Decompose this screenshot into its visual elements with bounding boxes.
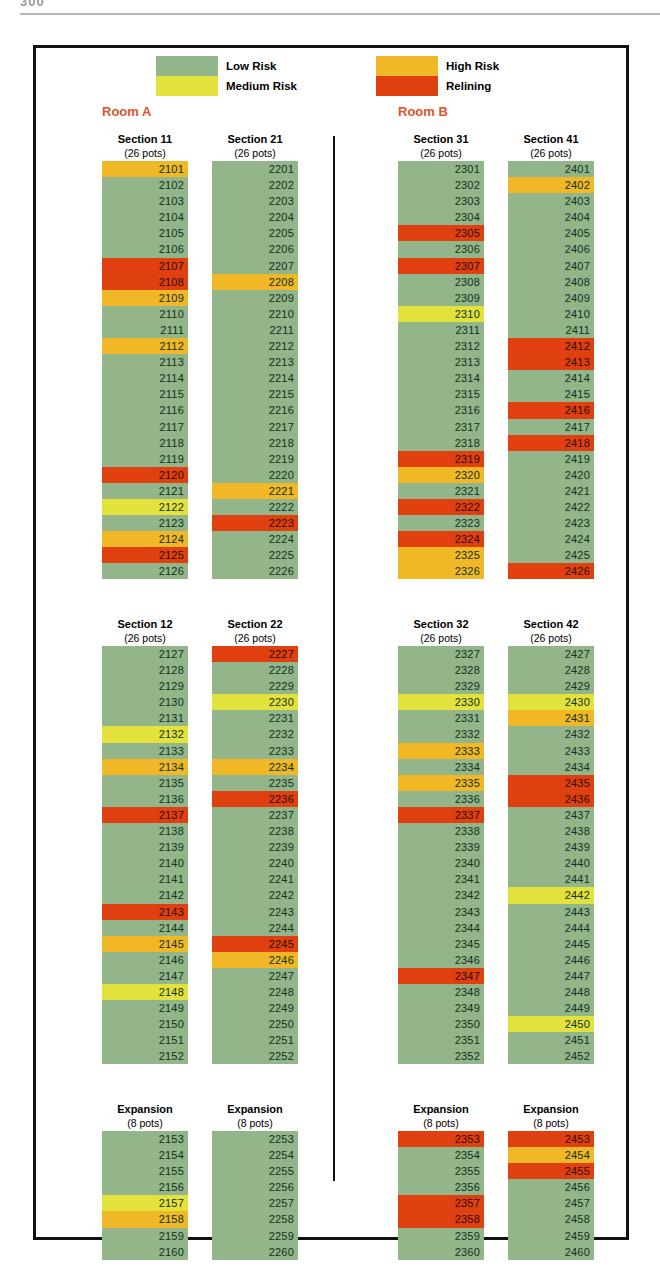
pot-cell[interactable]: 2226 bbox=[212, 563, 298, 579]
pot-cell[interactable]: 2460 bbox=[508, 1244, 594, 1260]
pot-cell[interactable]: 2403 bbox=[508, 193, 594, 209]
pot-cell[interactable]: 2405 bbox=[508, 225, 594, 241]
pot-cell[interactable]: 2230 bbox=[212, 694, 298, 710]
pot-cell[interactable]: 2109 bbox=[102, 290, 188, 306]
pot-cell[interactable]: 2319 bbox=[398, 451, 484, 467]
pot-cell[interactable]: 2240 bbox=[212, 855, 298, 871]
pot-cell[interactable]: 2344 bbox=[398, 920, 484, 936]
pot-cell[interactable]: 2343 bbox=[398, 904, 484, 920]
pot-cell[interactable]: 2108 bbox=[102, 274, 188, 290]
pot-cell[interactable]: 2103 bbox=[102, 193, 188, 209]
pot-cell[interactable]: 2321 bbox=[398, 483, 484, 499]
pot-cell[interactable]: 2259 bbox=[212, 1228, 298, 1244]
pot-cell[interactable]: 2106 bbox=[102, 241, 188, 257]
pot-cell[interactable]: 2113 bbox=[102, 354, 188, 370]
pot-cell[interactable]: 2155 bbox=[102, 1163, 188, 1179]
pot-cell[interactable]: 2231 bbox=[212, 710, 298, 726]
pot-cell[interactable]: 2350 bbox=[398, 1016, 484, 1032]
pot-cell[interactable]: 2320 bbox=[398, 467, 484, 483]
pot-cell[interactable]: 2205 bbox=[212, 225, 298, 241]
pot-cell[interactable]: 2324 bbox=[398, 531, 484, 547]
pot-cell[interactable]: 2141 bbox=[102, 871, 188, 887]
pot-cell[interactable]: 2443 bbox=[508, 904, 594, 920]
pot-cell[interactable]: 2332 bbox=[398, 726, 484, 742]
pot-cell[interactable]: 2143 bbox=[102, 904, 188, 920]
pot-cell[interactable]: 2150 bbox=[102, 1016, 188, 1032]
pot-cell[interactable]: 2147 bbox=[102, 968, 188, 984]
pot-cell[interactable]: 2126 bbox=[102, 563, 188, 579]
pot-cell[interactable]: 2227 bbox=[212, 646, 298, 662]
pot-cell[interactable]: 2220 bbox=[212, 467, 298, 483]
pot-cell[interactable]: 2334 bbox=[398, 759, 484, 775]
pot-cell[interactable]: 2203 bbox=[212, 193, 298, 209]
pot-cell[interactable]: 2238 bbox=[212, 823, 298, 839]
pot-cell[interactable]: 2131 bbox=[102, 710, 188, 726]
pot-cell[interactable]: 2458 bbox=[508, 1211, 594, 1227]
pot-cell[interactable]: 2159 bbox=[102, 1228, 188, 1244]
pot-cell[interactable]: 2439 bbox=[508, 839, 594, 855]
pot-cell[interactable]: 2140 bbox=[102, 855, 188, 871]
pot-cell[interactable]: 2154 bbox=[102, 1147, 188, 1163]
pot-cell[interactable]: 2328 bbox=[398, 662, 484, 678]
pot-cell[interactable]: 2355 bbox=[398, 1163, 484, 1179]
pot-cell[interactable]: 2335 bbox=[398, 775, 484, 791]
pot-cell[interactable]: 2116 bbox=[102, 402, 188, 418]
pot-cell[interactable]: 2246 bbox=[212, 952, 298, 968]
pot-cell[interactable]: 2255 bbox=[212, 1163, 298, 1179]
pot-cell[interactable]: 2305 bbox=[398, 225, 484, 241]
pot-cell[interactable]: 2245 bbox=[212, 936, 298, 952]
pot-cell[interactable]: 2325 bbox=[398, 547, 484, 563]
pot-cell[interactable]: 2133 bbox=[102, 743, 188, 759]
pot-cell[interactable]: 2210 bbox=[212, 306, 298, 322]
pot-cell[interactable]: 2445 bbox=[508, 936, 594, 952]
pot-cell[interactable]: 2249 bbox=[212, 1000, 298, 1016]
pot-cell[interactable]: 2431 bbox=[508, 710, 594, 726]
pot-cell[interactable]: 2430 bbox=[508, 694, 594, 710]
pot-cell[interactable]: 2207 bbox=[212, 258, 298, 274]
pot-cell[interactable]: 2326 bbox=[398, 563, 484, 579]
pot-cell[interactable]: 2219 bbox=[212, 451, 298, 467]
pot-cell[interactable]: 2303 bbox=[398, 193, 484, 209]
pot-cell[interactable]: 2118 bbox=[102, 435, 188, 451]
pot-cell[interactable]: 2257 bbox=[212, 1195, 298, 1211]
pot-cell[interactable]: 2448 bbox=[508, 984, 594, 1000]
pot-cell[interactable]: 2304 bbox=[398, 209, 484, 225]
pot-cell[interactable]: 2105 bbox=[102, 225, 188, 241]
pot-cell[interactable]: 2127 bbox=[102, 646, 188, 662]
pot-cell[interactable]: 2152 bbox=[102, 1048, 188, 1064]
pot-cell[interactable]: 2121 bbox=[102, 483, 188, 499]
pot-cell[interactable]: 2329 bbox=[398, 678, 484, 694]
pot-cell[interactable]: 2357 bbox=[398, 1195, 484, 1211]
pot-cell[interactable]: 2211 bbox=[212, 322, 298, 338]
pot-cell[interactable]: 2413 bbox=[508, 354, 594, 370]
pot-cell[interactable]: 2139 bbox=[102, 839, 188, 855]
pot-cell[interactable]: 2423 bbox=[508, 515, 594, 531]
pot-cell[interactable]: 2352 bbox=[398, 1048, 484, 1064]
pot-cell[interactable]: 2337 bbox=[398, 807, 484, 823]
pot-cell[interactable]: 2428 bbox=[508, 662, 594, 678]
pot-cell[interactable]: 2318 bbox=[398, 435, 484, 451]
pot-cell[interactable]: 2410 bbox=[508, 306, 594, 322]
pot-cell[interactable]: 2311 bbox=[398, 322, 484, 338]
pot-cell[interactable]: 2417 bbox=[508, 419, 594, 435]
pot-cell[interactable]: 2234 bbox=[212, 759, 298, 775]
pot-cell[interactable]: 2122 bbox=[102, 499, 188, 515]
pot-cell[interactable]: 2356 bbox=[398, 1179, 484, 1195]
pot-cell[interactable]: 2235 bbox=[212, 775, 298, 791]
pot-cell[interactable]: 2459 bbox=[508, 1228, 594, 1244]
pot-cell[interactable]: 2426 bbox=[508, 563, 594, 579]
pot-cell[interactable]: 2447 bbox=[508, 968, 594, 984]
pot-cell[interactable]: 2142 bbox=[102, 887, 188, 903]
pot-cell[interactable]: 2314 bbox=[398, 370, 484, 386]
pot-cell[interactable]: 2138 bbox=[102, 823, 188, 839]
pot-cell[interactable]: 2411 bbox=[508, 322, 594, 338]
pot-cell[interactable]: 2232 bbox=[212, 726, 298, 742]
pot-cell[interactable]: 2250 bbox=[212, 1016, 298, 1032]
pot-cell[interactable]: 2208 bbox=[212, 274, 298, 290]
pot-cell[interactable]: 2239 bbox=[212, 839, 298, 855]
pot-cell[interactable]: 2134 bbox=[102, 759, 188, 775]
pot-cell[interactable]: 2345 bbox=[398, 936, 484, 952]
pot-cell[interactable]: 2432 bbox=[508, 726, 594, 742]
pot-cell[interactable]: 2408 bbox=[508, 274, 594, 290]
pot-cell[interactable]: 2228 bbox=[212, 662, 298, 678]
